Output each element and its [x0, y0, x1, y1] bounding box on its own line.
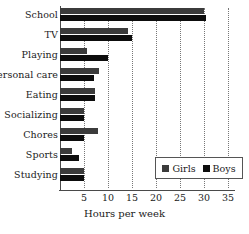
bar-girls-studying	[60, 168, 84, 174]
bar-girls-tv	[60, 28, 128, 34]
bar-boys-personal-care	[60, 75, 94, 81]
legend-label-boys: Boys	[213, 163, 236, 174]
plot-area: SchoolTVPlayingPersonal careEatingSocial…	[0, 0, 249, 234]
bar-boys-studying	[60, 175, 84, 181]
category-label-chores: Chores	[23, 130, 58, 140]
legend-swatch-girls-icon	[162, 165, 169, 172]
category-label-playing: Playing	[22, 50, 58, 60]
bar-girls-personal-care	[60, 68, 99, 74]
category-label-tv: TV	[45, 30, 58, 40]
bar-girls-eating	[60, 88, 95, 94]
bar-girls-school	[60, 8, 204, 14]
bar-boys-chores	[60, 135, 84, 141]
x-tick-label-30: 30	[198, 192, 210, 203]
legend-label-girls: Girls	[172, 163, 195, 174]
category-label-school: School	[25, 10, 58, 20]
category-label-socializing: Socializing	[4, 110, 58, 120]
legend: Girls Boys	[155, 157, 243, 179]
x-tick-label-15: 15	[126, 192, 138, 203]
bar-boys-socializing	[60, 115, 84, 121]
bar-girls-chores	[60, 128, 98, 134]
x-tick-label-10: 10	[102, 192, 114, 203]
bar-boys-school	[60, 15, 206, 21]
bar-boys-sports	[60, 155, 79, 161]
x-axis-line	[59, 190, 235, 191]
bar-boys-eating	[60, 95, 95, 101]
bar-girls-playing	[60, 48, 87, 54]
bar-girls-socializing	[60, 108, 84, 114]
bar-girls-sports	[60, 148, 72, 154]
legend-entry-boys: Boys	[203, 163, 236, 174]
legend-entry-girls: Girls	[162, 163, 195, 174]
x-tick-label-25: 25	[174, 192, 186, 203]
x-tick-label-5: 5	[81, 192, 87, 203]
x-tick-label-20: 20	[150, 192, 162, 203]
category-label-studying: Studying	[14, 170, 58, 180]
bar-boys-tv	[60, 35, 132, 41]
legend-swatch-boys-icon	[203, 165, 210, 172]
x-axis-title: Hours per week	[0, 208, 249, 219]
category-label-personal-care: Personal care	[0, 70, 58, 80]
category-label-sports: Sports	[26, 150, 58, 160]
bar-boys-playing	[60, 55, 108, 61]
x-tick-label-35: 35	[222, 192, 234, 203]
bar-chart: SchoolTVPlayingPersonal careEatingSocial…	[0, 0, 249, 234]
category-label-eating: Eating	[26, 90, 58, 100]
gridline-15	[132, 8, 134, 188]
